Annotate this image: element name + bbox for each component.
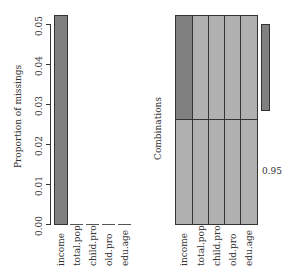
bar-old-pro	[102, 224, 115, 225]
combo-cell-observed	[240, 15, 258, 120]
combo-cell-observed	[175, 119, 193, 225]
combo-cell-observed	[224, 15, 241, 120]
combo-cell-observed	[192, 15, 209, 120]
ytick-label: 0.02	[34, 136, 44, 156]
combo-cell-observed	[224, 119, 241, 225]
combo-cell-observed	[208, 119, 225, 225]
combo-cell-missing	[175, 15, 193, 120]
xtick-label: child.pro	[212, 225, 222, 266]
xtick-label: old.pro	[104, 234, 114, 266]
right-ylabel: Combinations	[153, 97, 163, 160]
ytick-label: 0.05	[34, 16, 44, 36]
ytick-mark	[46, 144, 50, 145]
combo-cell-observed	[240, 119, 258, 225]
xtick-label: child.pro	[88, 225, 98, 266]
left-y-axis	[50, 24, 51, 225]
combo-cell-observed	[208, 15, 225, 120]
xtick-label: edu.age	[244, 230, 254, 266]
ytick-mark	[46, 24, 50, 25]
bar-edu-age	[118, 224, 131, 225]
ytick-mark	[46, 224, 50, 225]
ytick-label: 0.00	[34, 216, 44, 236]
ytick-label: 0.04	[34, 56, 44, 76]
combo-cell-observed	[192, 119, 209, 225]
ytick-mark	[46, 104, 50, 105]
combo-proportion-bar	[261, 24, 270, 111]
xtick-label: income	[56, 233, 66, 266]
ytick-mark	[46, 64, 50, 65]
ytick-mark	[46, 184, 50, 185]
xtick-label: old.pro	[228, 234, 238, 266]
ytick-label: 0.01	[34, 176, 44, 196]
xtick-label: total.pop	[196, 225, 206, 266]
xtick-label: total.pop	[72, 225, 82, 266]
xtick-label: income	[179, 233, 189, 266]
xtick-label: edu.age	[120, 230, 130, 266]
left-ylabel: Proportion of missings	[13, 65, 23, 168]
ytick-label: 0.03	[34, 96, 44, 116]
bar-income	[54, 15, 68, 225]
combo-proportion-label: 0.95	[262, 166, 282, 176]
